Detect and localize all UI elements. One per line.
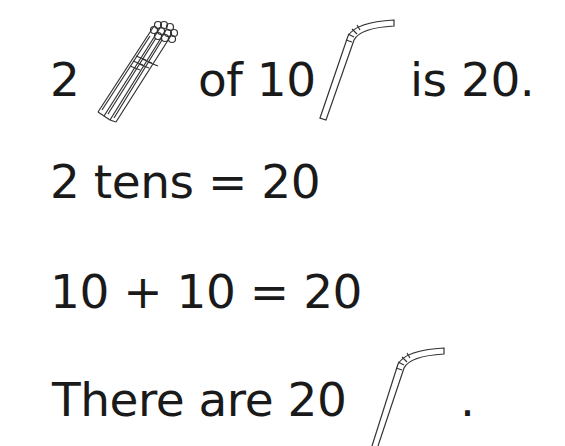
line3-addition: 10 + 10 = 20 [50, 268, 362, 315]
line1-is-twenty: is 20. [410, 56, 534, 103]
line4-there-are: There are 20 [52, 376, 346, 423]
bendy-straw-icon [318, 14, 398, 126]
bendy-straw-icon [368, 342, 448, 446]
line1-of-ten: of 10 [198, 56, 316, 103]
line1-number: 2 [50, 56, 79, 103]
line2-tens: 2 tens = 20 [50, 158, 320, 205]
bundle-of-ten-straws-icon [92, 14, 182, 126]
line4-period: . [460, 376, 474, 423]
